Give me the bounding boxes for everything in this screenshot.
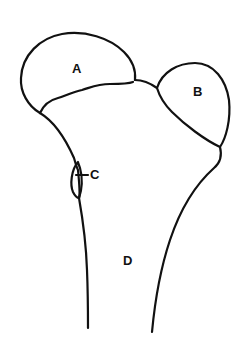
- region-b-outline: [157, 63, 229, 147]
- femur-outline-diagram: [0, 0, 245, 337]
- label-d: D: [123, 253, 132, 268]
- region-a-boundary: [40, 82, 133, 113]
- label-c: C: [90, 167, 99, 182]
- shaft-left-edge: [40, 113, 88, 328]
- shaft-right-edge: [152, 147, 221, 332]
- neck-top: [135, 80, 157, 88]
- label-b: B: [193, 84, 202, 99]
- label-a: A: [72, 61, 81, 76]
